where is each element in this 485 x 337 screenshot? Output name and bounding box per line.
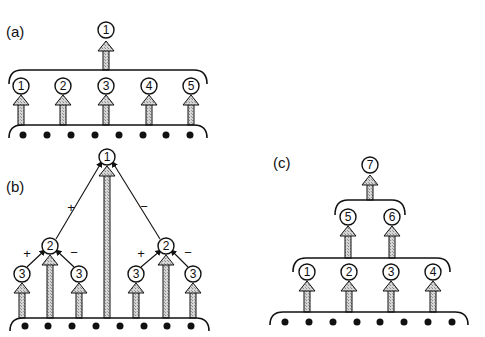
node-c-2: 2 bbox=[341, 264, 357, 280]
level1-a: 1 2 3 4 5 bbox=[13, 78, 199, 125]
node-a-4: 4 bbox=[141, 78, 157, 94]
arrow-a-5 bbox=[183, 95, 199, 125]
node-b-leaf-2: 3 bbox=[71, 266, 87, 282]
node-c-4: 4 bbox=[425, 264, 441, 280]
arrow-b-left-mid bbox=[42, 255, 58, 318]
bracket-b-lower bbox=[10, 318, 209, 331]
svg-text:2: 2 bbox=[346, 265, 353, 279]
svg-text:1: 1 bbox=[103, 23, 110, 37]
node-a-2: 2 bbox=[55, 78, 71, 94]
arrow-c-4 bbox=[425, 281, 441, 312]
svg-text:3: 3 bbox=[76, 267, 83, 281]
arrow-c-3 bbox=[383, 281, 399, 312]
svg-text:3: 3 bbox=[388, 265, 395, 279]
arrow-a-3 bbox=[98, 95, 114, 125]
svg-text:4: 4 bbox=[146, 79, 153, 93]
arrow-a-2 bbox=[55, 95, 71, 125]
node-a-3: 3 bbox=[98, 78, 114, 94]
arrow-c-1 bbox=[299, 281, 315, 312]
panel-c: (c) 7 5 6 1 2 3 4 bbox=[270, 154, 468, 326]
bracket-a-lower bbox=[9, 125, 207, 138]
node-c-3: 3 bbox=[383, 264, 399, 280]
panel-b: (b) + − + − + − bbox=[6, 149, 209, 331]
svg-text:3: 3 bbox=[190, 267, 197, 281]
input-dots-c bbox=[282, 319, 456, 326]
node-b-leaf-4: 3 bbox=[185, 266, 201, 282]
node-c-7: 7 bbox=[362, 157, 378, 173]
svg-text:2: 2 bbox=[47, 239, 54, 253]
node-b-root: 1 bbox=[99, 149, 115, 165]
node-c-6: 6 bbox=[384, 209, 400, 225]
svg-text:2: 2 bbox=[163, 239, 170, 253]
node-c-1: 1 bbox=[299, 264, 315, 280]
node-a-5: 5 bbox=[183, 78, 199, 94]
panel-a-label: (a) bbox=[6, 23, 24, 40]
arrow-a-top bbox=[98, 41, 114, 70]
arrow-b-leaf-3 bbox=[128, 283, 144, 318]
svg-text:+: + bbox=[67, 200, 75, 215]
svg-text:1: 1 bbox=[18, 79, 25, 93]
svg-text:7: 7 bbox=[367, 158, 374, 172]
panel-c-label: (c) bbox=[273, 154, 291, 171]
svg-text:−: − bbox=[70, 245, 78, 260]
node-a-top: 1 bbox=[98, 22, 114, 38]
svg-text:5: 5 bbox=[345, 210, 352, 224]
node-a-1: 1 bbox=[13, 78, 29, 94]
svg-text:1: 1 bbox=[104, 150, 111, 164]
arrow-a-1 bbox=[13, 95, 29, 125]
svg-text:6: 6 bbox=[389, 210, 396, 224]
node-b-right-mid: 2 bbox=[158, 238, 174, 254]
svg-text:+: + bbox=[137, 246, 145, 261]
svg-text:4: 4 bbox=[430, 265, 437, 279]
node-c-5: 5 bbox=[340, 209, 356, 225]
arrow-b-leaf-1 bbox=[14, 283, 30, 318]
node-b-leaf-1: 3 bbox=[14, 266, 30, 282]
panel-b-label: (b) bbox=[6, 178, 24, 195]
panel-a: (a) 1 1 2 3 4 5 bbox=[6, 22, 207, 139]
arrow-b-right-mid bbox=[158, 255, 174, 318]
node-b-leaf-3: 3 bbox=[128, 266, 144, 282]
input-dots-a bbox=[20, 132, 194, 139]
svg-text:3: 3 bbox=[133, 267, 140, 281]
input-dots-b bbox=[22, 323, 195, 330]
node-b-left-mid: 2 bbox=[42, 238, 58, 254]
svg-text:1: 1 bbox=[304, 265, 311, 279]
diagram-canvas: (a) 1 1 2 3 4 5 bbox=[0, 0, 485, 337]
arrow-c-2 bbox=[341, 281, 357, 312]
arrow-c-top bbox=[362, 175, 378, 200]
arrow-b-leaf-2 bbox=[71, 283, 87, 318]
svg-text:−: − bbox=[184, 245, 192, 260]
bracket-c-lower bbox=[270, 312, 468, 325]
svg-text:−: − bbox=[140, 199, 148, 214]
arrow-b-root bbox=[99, 166, 115, 318]
svg-text:+: + bbox=[23, 246, 31, 261]
svg-text:3: 3 bbox=[103, 79, 110, 93]
svg-text:3: 3 bbox=[19, 267, 26, 281]
svg-text:2: 2 bbox=[60, 79, 67, 93]
arrow-b-leaf-4 bbox=[185, 283, 201, 318]
arrow-a-4 bbox=[141, 95, 157, 125]
arrow-c-6 bbox=[384, 226, 400, 258]
arrow-c-5 bbox=[340, 226, 356, 258]
svg-text:5: 5 bbox=[188, 79, 195, 93]
